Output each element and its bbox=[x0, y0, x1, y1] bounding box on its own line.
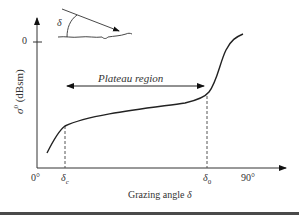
inset-rough-surface bbox=[58, 33, 132, 38]
backscatter-curve bbox=[47, 34, 243, 153]
x-tick-90: 90° bbox=[241, 172, 255, 183]
y-axis-label-units: (dBsm) bbox=[13, 69, 25, 105]
delta-0-subscript: 0 bbox=[208, 178, 212, 186]
diagram-canvas: δ 0 σ0 (dBsm) Plateau region 0° δc δ0 90… bbox=[0, 0, 299, 215]
x-tick-origin: 0° bbox=[31, 172, 40, 183]
inset-angle-arc bbox=[67, 15, 77, 37]
inset-angle-label: δ bbox=[57, 17, 62, 28]
x-tick-delta-c: δc bbox=[61, 172, 69, 186]
plateau-region-label: Plateau region bbox=[98, 72, 163, 84]
x-axis-label-symbol: δ bbox=[187, 189, 192, 200]
y-axis-zero-label: 0 bbox=[22, 35, 27, 46]
delta-c-subscript: c bbox=[66, 178, 69, 186]
bottom-rule bbox=[0, 212, 299, 215]
x-axis-label: Grazing angle δ bbox=[128, 189, 192, 200]
x-axis-label-text: Grazing angle bbox=[128, 189, 187, 200]
y-axis-label: σ0 (dBsm) bbox=[12, 69, 25, 114]
y-axis-label-symbol: σ bbox=[13, 109, 25, 114]
x-tick-delta-0: δ0 bbox=[203, 172, 211, 186]
y-axis-label-superscript: 0 bbox=[12, 105, 20, 109]
inset-incident-ray bbox=[62, 9, 119, 31]
